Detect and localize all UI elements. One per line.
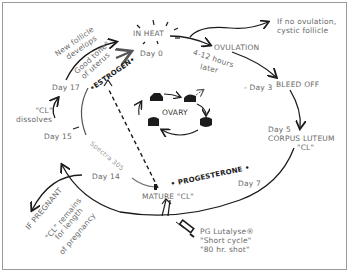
day-0-label: Day 0 bbox=[140, 50, 163, 58]
cl-dissolves-label: dissolves bbox=[16, 116, 52, 124]
arrow-icon bbox=[232, 52, 276, 77]
cystic-follicle-label: cystic follicle bbox=[277, 27, 328, 35]
pg-lutalyse-label: PG Lutalyse® bbox=[200, 228, 254, 236]
arrow-icon bbox=[190, 22, 268, 37]
follicle-icon bbox=[184, 94, 196, 102]
mature-cl-label: MATURE "CL" bbox=[142, 193, 194, 201]
day-7-label: Day 7 bbox=[238, 180, 261, 188]
day-17-label: Day 17 bbox=[52, 84, 80, 92]
corpus-luteum-cl-label: "CL" bbox=[297, 144, 314, 152]
arrow-icon bbox=[290, 90, 300, 128]
syringe-icon bbox=[162, 199, 194, 237]
day-15-label: Day 15 bbox=[44, 133, 72, 141]
follicle-icon bbox=[150, 93, 163, 101]
ovulation-label: OVULATION bbox=[214, 44, 259, 52]
follicle-icon bbox=[200, 117, 212, 127]
day-5-label: Day 5 bbox=[268, 126, 291, 134]
day-14-label: Day 14 bbox=[92, 173, 120, 181]
corpus-luteum-label: CORPUS LUTEUM bbox=[268, 135, 335, 143]
arrow-icon bbox=[170, 36, 210, 45]
day-3-label: - Day 3 bbox=[244, 84, 272, 92]
in-heat-label: IN HEAT bbox=[133, 30, 164, 38]
ovary-label: OVARY bbox=[162, 109, 188, 117]
follicle-icon bbox=[148, 117, 159, 126]
no-ovulation-label: If no ovulation, bbox=[277, 18, 336, 26]
cl-dissolves-cl: "CL" bbox=[24, 107, 64, 115]
bleed-off-label: BLEED OFF bbox=[276, 81, 319, 89]
short-cycle-label: "Short cycle" bbox=[200, 237, 251, 245]
80-hr-shot-label: "80 hr. shot" bbox=[200, 246, 250, 254]
